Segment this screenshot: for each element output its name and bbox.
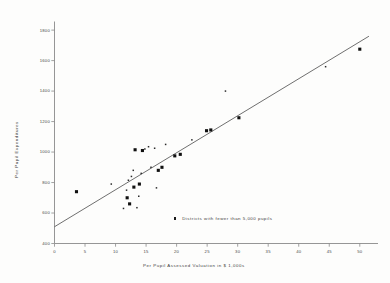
data-point [128, 202, 131, 205]
data-point [133, 170, 135, 172]
axes-group [51, 22, 378, 247]
data-point [225, 90, 227, 92]
data-point [111, 183, 113, 185]
y-axis-title: Per Pupil Expenditures [14, 121, 19, 178]
data-point [134, 148, 137, 151]
x-tick-label: 30 [228, 249, 248, 254]
x-tick-label: 50 [350, 249, 370, 254]
data-point [157, 169, 160, 172]
data-point [75, 190, 78, 193]
data-point [237, 116, 240, 119]
data-point [154, 147, 156, 149]
x-tick-label: 25 [197, 249, 217, 254]
x-tick-label: 15 [136, 249, 156, 254]
x-tick-label: 40 [289, 249, 309, 254]
data-point [191, 139, 193, 141]
legend: Districts with fewer than 5,000 pupils [174, 216, 273, 221]
data-point [358, 48, 361, 51]
x-tick-label: 10 [106, 249, 126, 254]
data-points-group [75, 48, 361, 210]
data-point [132, 186, 135, 189]
y-tick-label: 800 [20, 180, 50, 185]
data-point [140, 173, 142, 175]
y-tick-label: 1400 [20, 88, 50, 93]
data-point [123, 208, 125, 210]
data-point [173, 154, 176, 157]
y-tick-label: 600 [20, 210, 50, 215]
data-point [128, 179, 130, 181]
data-point [144, 148, 146, 150]
data-point [209, 128, 212, 131]
data-point [325, 66, 327, 68]
x-tick-label: 0 [45, 249, 65, 254]
data-point [126, 196, 129, 199]
y-tick-label: 1600 [20, 58, 50, 63]
y-tick-label: 1800 [20, 28, 50, 33]
data-point [136, 207, 138, 209]
x-axis-title: Per Pupil Assessed Valuation in $ 1,000s [143, 263, 245, 268]
legend-label: Districts with fewer than 5,000 pupils [182, 216, 272, 221]
y-tick-label: 1000 [20, 149, 50, 154]
data-point [160, 166, 163, 169]
scatter-plot-figure: 40060080010001200140016001800 0510152025… [0, 0, 390, 283]
data-point [150, 167, 152, 169]
data-point [156, 187, 158, 189]
data-point [138, 196, 140, 198]
y-tick-label: 400 [20, 241, 50, 246]
data-point [126, 189, 128, 191]
data-point [131, 176, 133, 178]
data-point [165, 144, 167, 146]
data-point [205, 129, 208, 132]
data-point [148, 146, 150, 148]
data-point [138, 183, 141, 186]
plot-canvas [0, 0, 390, 283]
legend-marker-small-square [174, 217, 177, 220]
data-point [179, 153, 182, 156]
x-tick-label: 20 [167, 249, 187, 254]
data-point [141, 149, 144, 152]
y-tick-label: 1200 [20, 119, 50, 124]
x-tick-label: 35 [258, 249, 278, 254]
x-tick-label: 45 [319, 249, 339, 254]
x-tick-label: 5 [75, 249, 95, 254]
